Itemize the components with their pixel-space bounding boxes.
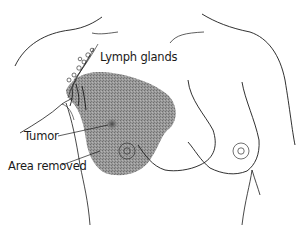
armpit-line [62, 104, 74, 120]
center-collarbone [170, 32, 204, 43]
right-torso-line-b [252, 170, 260, 195]
tumor-mass [106, 118, 118, 130]
right-torso-line-a [242, 170, 252, 225]
right-nipple [238, 148, 244, 154]
right-shoulder-outline [202, 14, 295, 145]
left-collarbone [92, 32, 118, 34]
right-areola [233, 143, 249, 159]
label-tumor: Tumor [24, 131, 59, 143]
left-arm-outline [20, 98, 72, 133]
anatomy-drawing [0, 0, 306, 238]
label-lymph-glands: Lymph glands [100, 52, 177, 64]
label-area-removed: Area removed [8, 161, 87, 173]
diagram-canvas: Lymph glands Tumor Area removed [0, 0, 306, 238]
right-breast-contour [188, 82, 259, 174]
